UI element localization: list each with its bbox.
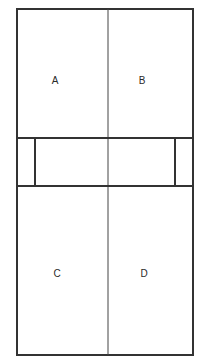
zone-label-d: D [140,269,147,279]
court-lines [0,0,204,362]
zone-label-c: C [53,269,60,279]
zone-label-b: B [139,76,146,86]
court-diagram: A B C D [0,0,204,362]
zone-label-a: A [52,76,59,86]
outer-boundary [17,9,193,355]
